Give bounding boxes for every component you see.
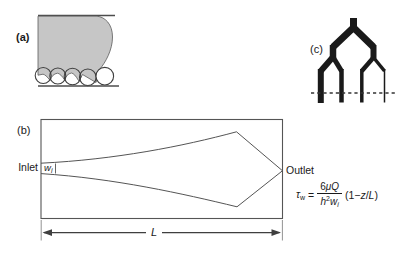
eq-tau-sub: w xyxy=(300,194,305,201)
manifold-left-y-right xyxy=(333,57,342,71)
eq-equals: = xyxy=(308,190,314,201)
arrowhead-left xyxy=(43,229,53,236)
channel-top-curve xyxy=(41,132,282,171)
length-label: L xyxy=(146,227,162,238)
eq-denominator: h2wi xyxy=(320,194,338,208)
eq-tau: τw xyxy=(296,189,305,201)
inlet-label: Inlet xyxy=(0,162,38,173)
manifold-right-y-right xyxy=(374,58,385,72)
panel-b-drawing xyxy=(41,120,283,241)
panel-a-drawing xyxy=(35,16,119,87)
eq-fraction: 6μQ h2wi xyxy=(317,182,342,208)
inlet-width-label: wi xyxy=(44,163,52,174)
eq-factor: (1−z/L) xyxy=(345,190,378,201)
eq-numerator: 6μQ xyxy=(317,182,342,194)
channel-bottom-curve xyxy=(41,171,282,207)
panel-a-label: (a) xyxy=(16,32,29,43)
manifold-right-y-left xyxy=(362,58,374,72)
manifold-left-y-left xyxy=(321,57,333,71)
panel-c-label: (c) xyxy=(310,44,323,55)
chip-outline-rect xyxy=(41,120,283,219)
panel-c-drawing xyxy=(311,18,398,103)
inlet-width-sub: i xyxy=(51,167,53,174)
figure-artwork xyxy=(0,0,408,253)
shear-stress-equation: τw = 6μQ h2wi (1−z/L) xyxy=(296,182,381,208)
particle-circle-5 xyxy=(96,67,114,85)
manifold-first-bifurcation xyxy=(333,28,374,48)
figure-canvas: (a) (b) (c) Inlet wi Outlet L τw = 6μQ h… xyxy=(0,0,408,253)
inlet-width-var: w xyxy=(44,162,51,173)
arrowhead-right xyxy=(272,229,282,236)
outlet-label: Outlet xyxy=(286,165,314,176)
panel-b-label: (b) xyxy=(17,125,30,136)
